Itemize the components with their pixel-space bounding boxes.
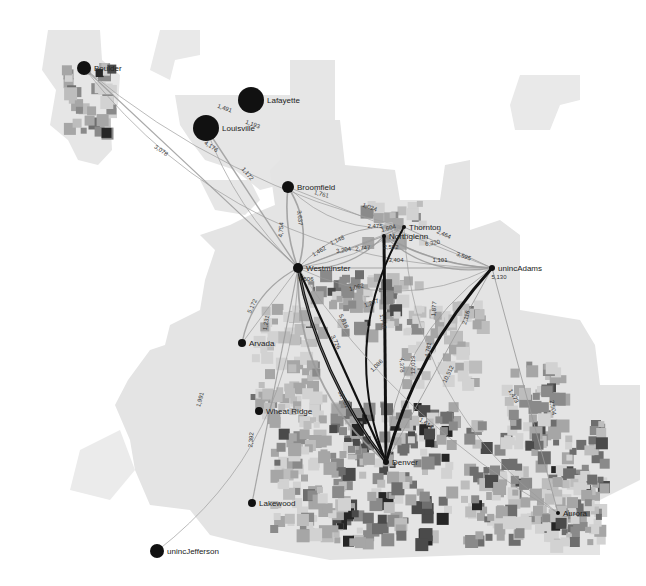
tract-cell (478, 421, 487, 430)
tract-cell (300, 429, 310, 439)
tract-cell (435, 416, 442, 423)
tract-cell (378, 515, 387, 524)
city-label: Westminster (306, 264, 351, 273)
tract-cell (255, 399, 265, 409)
city-marker-icon[interactable] (282, 181, 294, 193)
tract-cell (354, 322, 367, 335)
tract-cell (331, 525, 338, 532)
tract-cell (334, 537, 340, 543)
city-marker-icon[interactable] (150, 544, 164, 558)
tract-cell (515, 528, 525, 538)
tract-cell (420, 492, 430, 502)
flow-value-label: 5,130 (491, 274, 507, 280)
tract-cell (565, 443, 572, 450)
tract-cell (64, 87, 77, 100)
tract-cell (556, 518, 567, 529)
city-marker-icon[interactable] (293, 263, 303, 273)
city-node-uncjefferson[interactable]: unincJefferson (150, 544, 219, 558)
tract-cell (297, 529, 310, 542)
tract-cell (422, 469, 428, 475)
flow-value-label: 3,404 (388, 257, 404, 263)
tract-cell (391, 482, 404, 495)
tract-cell (322, 436, 332, 446)
tract-cell (473, 320, 482, 329)
tract-cell (355, 270, 364, 279)
city-marker-icon[interactable] (77, 61, 91, 75)
region-east-north (510, 75, 580, 130)
city-node-northglenn[interactable]: Northglenn (382, 232, 428, 241)
city-marker-icon[interactable] (238, 87, 264, 113)
tract-cell (585, 527, 591, 533)
tract-cell (589, 436, 597, 444)
tract-cell (390, 212, 396, 218)
tract-cell (349, 538, 357, 546)
city-marker-icon[interactable] (238, 339, 246, 347)
tract-cell (542, 514, 550, 522)
tract-cell (372, 523, 383, 534)
city-node-boulder[interactable]: Boulder (77, 61, 122, 75)
tract-cell (324, 462, 337, 475)
tract-cell (546, 362, 558, 374)
city-label: Northglenn (389, 232, 428, 241)
city-marker-icon[interactable] (248, 499, 256, 507)
tract-cell (509, 410, 519, 420)
tract-cell (420, 449, 427, 456)
city-marker-icon[interactable] (556, 511, 560, 515)
tract-cell (510, 420, 516, 426)
tract-cell (309, 528, 322, 541)
tract-cell (270, 525, 278, 533)
city-label: Denver (392, 458, 418, 467)
tract-cell (318, 493, 328, 503)
tract-cell (444, 335, 453, 344)
city-marker-icon[interactable] (382, 234, 386, 238)
city-marker-icon[interactable] (402, 225, 406, 229)
tract-cell (474, 301, 483, 310)
tract-cell (598, 477, 604, 483)
tract-cell (304, 421, 312, 429)
city-marker-icon[interactable] (383, 459, 389, 465)
tract-cell (487, 514, 494, 521)
city-marker-icon[interactable] (193, 115, 219, 141)
flow-value-label: 9,506 (298, 276, 314, 282)
tract-cell (442, 454, 450, 462)
tract-cell (363, 513, 374, 524)
tract-cell (567, 497, 578, 508)
tract-cell (403, 328, 410, 335)
tract-cell (301, 447, 309, 455)
city-marker-icon[interactable] (489, 265, 495, 271)
city-label: unincJefferson (167, 547, 219, 556)
tract-cell (514, 440, 523, 449)
tract-cell (550, 420, 557, 427)
city-label: Thornton (409, 223, 441, 232)
tract-cell (477, 513, 485, 521)
tract-cell (553, 477, 563, 487)
city-label: Arvada (249, 339, 275, 348)
tract-cell (531, 449, 538, 456)
tract-cell (283, 488, 295, 500)
tract-cell (317, 487, 323, 493)
city-node-arvada[interactable]: Arvada (238, 339, 275, 348)
tract-cell (81, 128, 87, 134)
tract-cell (285, 514, 295, 524)
tract-cell (340, 451, 347, 458)
city-marker-icon[interactable] (255, 407, 263, 415)
city-node-broomfield[interactable]: Broomfield (282, 181, 335, 193)
tract-cell (285, 388, 295, 398)
tract-cell (289, 433, 297, 441)
tract-cell (367, 492, 376, 501)
city-label: Wheat Ridge (266, 407, 313, 416)
tract-cell (415, 281, 424, 290)
tract-cell (461, 496, 468, 503)
tract-cell (503, 516, 516, 529)
tract-cell (444, 506, 452, 514)
tract-cell (337, 296, 343, 302)
tract-cell (348, 301, 356, 309)
region-boulder-north (150, 30, 200, 80)
tract-cell (486, 534, 493, 541)
tract-cell (475, 531, 483, 539)
tract-cell (394, 495, 403, 504)
tract-cell (587, 475, 597, 485)
tract-cell (384, 502, 395, 513)
tract-cell (259, 382, 265, 388)
tract-cell (353, 439, 360, 446)
